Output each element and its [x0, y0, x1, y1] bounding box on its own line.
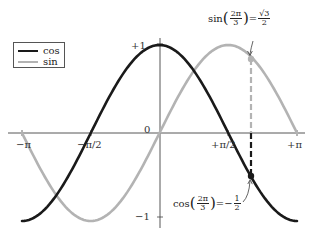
sin-point-marker	[248, 56, 254, 62]
cos-annotation-fn: cos	[173, 198, 190, 209]
cos-annotation-arrow	[243, 180, 252, 203]
x-tick-label-neg-pi: −π	[16, 140, 31, 150]
legend-label-sin: sin	[43, 57, 58, 67]
sin-swatch	[18, 61, 38, 63]
cos-annotation: cos ( 2π 3 ) =− 1 2	[173, 195, 242, 212]
legend-label-cos: cos	[43, 46, 60, 56]
cos-point-marker	[248, 173, 254, 179]
sin-annotation-fn: sin	[208, 13, 223, 24]
sin-annotation-arg: 2π 3	[230, 10, 242, 27]
sin-annotation-eq: =	[249, 13, 257, 24]
x-tick-label-zero: 0	[144, 125, 150, 135]
plot-area	[0, 0, 312, 240]
legend-item-cos: cos	[18, 45, 60, 56]
cos-annotation-arg: 2π 3	[197, 195, 209, 212]
x-tick-label-pi: +π	[287, 140, 302, 150]
y-tick-label-minus-one: −1	[135, 212, 150, 222]
y-tick-label-plus-one: +1	[131, 41, 146, 51]
cos-swatch	[18, 50, 38, 52]
cos-annotation-eq: =−	[216, 198, 233, 209]
x-tick-label-half-pi: +π/2	[211, 140, 236, 150]
cos-annotation-value: 1 2	[234, 195, 241, 212]
x-tick-label-neg-half-pi: −π/2	[77, 140, 102, 150]
legend: cos sin	[13, 42, 65, 68]
sin-annotation: sin ( 2π 3 ) = √3 2	[208, 10, 271, 27]
sin-annotation-value: √3 2	[258, 10, 270, 27]
legend-item-sin: sin	[18, 56, 58, 67]
